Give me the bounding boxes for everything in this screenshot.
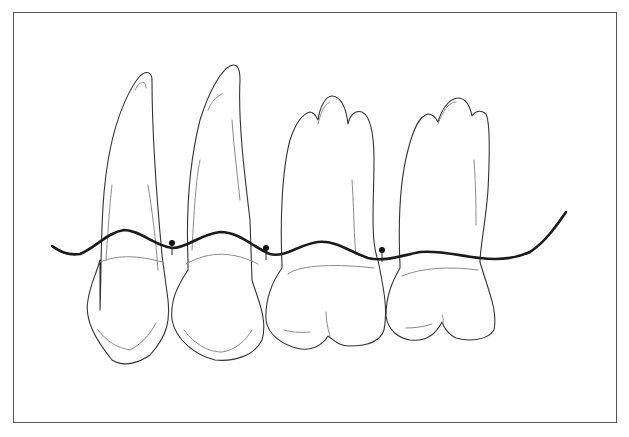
tooth-2	[172, 65, 264, 360]
gingival-margin-line	[52, 212, 566, 259]
tooth-1	[87, 73, 168, 364]
tooth-4	[386, 98, 495, 340]
teeth-diagram	[0, 0, 629, 437]
tooth-3	[266, 96, 386, 349]
